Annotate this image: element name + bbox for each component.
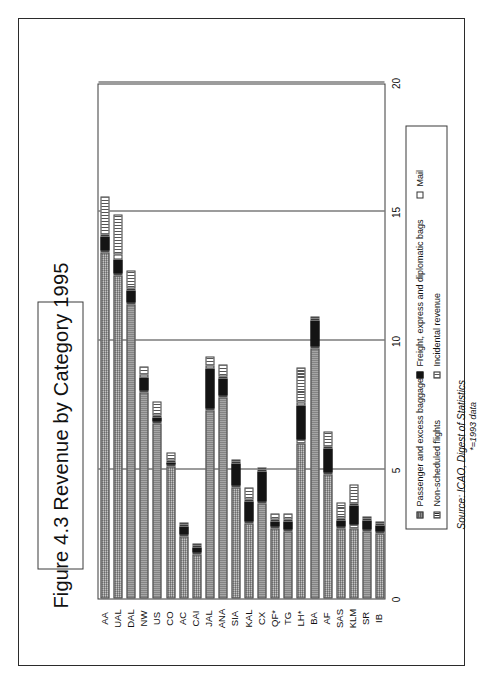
bar-segment-freight bbox=[192, 547, 201, 552]
bar-segment-passenger bbox=[205, 410, 214, 598]
bar-segment-freight bbox=[323, 448, 332, 473]
bar-segment-incidental bbox=[375, 521, 384, 523]
category-label: QF* bbox=[268, 603, 279, 633]
category-label: CO bbox=[163, 603, 174, 633]
category-label: LH* bbox=[294, 603, 305, 633]
bar-segment-passenger bbox=[375, 534, 384, 599]
value-tick-label: 5 bbox=[390, 455, 401, 485]
bar-segment-freight bbox=[205, 368, 214, 408]
bar-segment-passenger bbox=[192, 554, 201, 598]
bar-row bbox=[257, 467, 266, 598]
bar-segment-mail bbox=[113, 254, 122, 259]
bar-segment-freight bbox=[349, 505, 358, 524]
bar-row bbox=[231, 459, 240, 598]
bar-row bbox=[362, 516, 371, 598]
bar-segment-freight bbox=[310, 320, 319, 346]
bar-segment-freight bbox=[218, 378, 227, 395]
plot-inner bbox=[98, 84, 384, 598]
legend-label: Passenger and excess baggage bbox=[414, 377, 424, 506]
legend-item-freight[interactable]: Freight, express and diplomatic bags bbox=[414, 219, 424, 378]
category-label: CAI bbox=[189, 603, 200, 633]
bar-segment-incidental bbox=[296, 367, 305, 402]
bar-segment-passenger bbox=[336, 528, 345, 598]
bar-segment-freight bbox=[179, 526, 188, 534]
bar-row bbox=[166, 452, 175, 598]
bar-row bbox=[126, 270, 135, 598]
category-label: BA bbox=[307, 603, 318, 633]
bar-segment-nonsched bbox=[296, 439, 305, 443]
bar-segment-passenger bbox=[310, 348, 319, 598]
bar-segment-freight bbox=[362, 520, 371, 529]
bar-row bbox=[336, 502, 345, 598]
legend-label: Non-scheduled flights bbox=[431, 419, 441, 506]
value-tick-label: 15 bbox=[390, 197, 401, 227]
bar-segment-incidental bbox=[192, 543, 201, 545]
bar-segment-incidental bbox=[100, 196, 109, 233]
category-label: AA bbox=[98, 603, 109, 633]
bar-segment-incidental bbox=[152, 401, 161, 415]
bar-segment-nonsched bbox=[349, 524, 358, 528]
category-label: SIA bbox=[228, 603, 239, 633]
category-label: KAL bbox=[242, 603, 253, 633]
chart-canvas: Figure 4.3 Revenue by Category 1995 0510… bbox=[19, 19, 464, 665]
gridline-20 bbox=[98, 82, 384, 83]
bar-segment-incidental bbox=[179, 522, 188, 525]
legend-label: Incidental revenue bbox=[431, 292, 441, 366]
category-label: JAL bbox=[202, 603, 213, 633]
source-block: Source: ICAO, Digest of Statistics *=199… bbox=[455, 380, 477, 530]
bar-segment-freight bbox=[152, 417, 161, 421]
bar-row bbox=[310, 316, 319, 598]
bar-segment-passenger bbox=[100, 252, 109, 598]
bar-segment-freight bbox=[113, 259, 122, 273]
bar-segment-freight bbox=[100, 236, 109, 250]
bar-row bbox=[296, 367, 305, 598]
bar-segment-incidental bbox=[283, 513, 292, 519]
legend-item-incidental[interactable]: Incidental revenue bbox=[431, 292, 441, 378]
bar-row bbox=[218, 364, 227, 598]
bar-segment-passenger bbox=[113, 276, 122, 599]
bar-segment-freight bbox=[231, 463, 240, 485]
bar-segment-incidental bbox=[336, 502, 345, 517]
bar-segment-incidental bbox=[218, 364, 227, 376]
bar-row bbox=[113, 214, 122, 598]
bar-segment-passenger bbox=[296, 443, 305, 598]
legend-label: Mail bbox=[414, 169, 424, 186]
value-tick-label: 10 bbox=[390, 326, 401, 356]
swatch-mail-icon bbox=[416, 191, 423, 198]
bar-segment-passenger bbox=[244, 523, 253, 598]
bar-row bbox=[349, 484, 358, 598]
swatch-nonscheduled-icon bbox=[433, 511, 440, 518]
value-tick-label: 20 bbox=[390, 68, 401, 98]
swatch-incidental-icon bbox=[433, 371, 440, 378]
bar-row bbox=[283, 513, 292, 598]
bar-row bbox=[192, 543, 201, 598]
legend-label: Freight, express and diplomatic bags bbox=[414, 219, 424, 366]
bar-segment-incidental bbox=[244, 487, 253, 499]
category-label: AF bbox=[320, 603, 331, 633]
bar-segment-freight bbox=[244, 501, 253, 522]
legend-item-passenger[interactable]: Passenger and excess baggage bbox=[414, 377, 424, 518]
rotated-figure-stage: Figure 4.3 Revenue by Category 1995 0510… bbox=[19, 19, 464, 665]
bar-segment-passenger bbox=[179, 536, 188, 598]
legend-item-mail[interactable]: Mail bbox=[414, 169, 424, 198]
bar-segment-incidental bbox=[349, 484, 358, 503]
category-label: AC bbox=[176, 603, 187, 633]
category-label: IB bbox=[372, 603, 383, 633]
legend-item-nonsched[interactable]: Non-scheduled flights bbox=[431, 419, 441, 518]
bar-row bbox=[244, 487, 253, 598]
bar-segment-incidental bbox=[270, 513, 279, 519]
category-label: SR bbox=[359, 603, 370, 633]
bar-segment-incidental bbox=[310, 316, 319, 318]
bar-segment-incidental bbox=[323, 431, 332, 445]
category-label: DAL bbox=[124, 603, 135, 633]
bar-segment-freight bbox=[283, 521, 292, 529]
category-label: SAS bbox=[333, 603, 344, 633]
category-label: UAL bbox=[111, 603, 122, 633]
bar-segment-freight bbox=[336, 520, 345, 526]
bar-segment-passenger bbox=[257, 503, 266, 598]
figure-title-box: Figure 4.3 Revenue by Category 1995 bbox=[37, 301, 83, 569]
source-citation: Source: ICAO, Digest of Statistics bbox=[455, 380, 466, 530]
bar-segment-incidental bbox=[205, 356, 214, 365]
category-label: TG bbox=[281, 603, 292, 633]
bar-row bbox=[205, 356, 214, 598]
